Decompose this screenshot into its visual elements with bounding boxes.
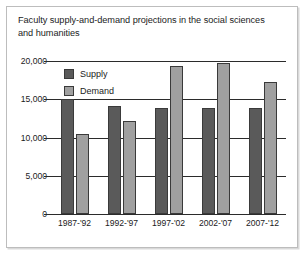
bar-group-4 xyxy=(249,61,277,214)
y-tick-label-15000: 15,000 xyxy=(1,94,47,104)
legend-swatch-supply xyxy=(64,69,74,79)
bar-supply-1[interactable] xyxy=(108,106,121,214)
y-axis-tick-labels: 20,00015,00010,0005,0000 xyxy=(1,61,47,214)
x-tick-label-1: 1992-'97 xyxy=(105,218,138,228)
x-tick-label-3: 2002-'07 xyxy=(199,218,232,228)
y-tick-label-10000: 10,000 xyxy=(1,133,47,143)
bar-group-2 xyxy=(155,61,183,214)
x-tick-label-2: 1997-'02 xyxy=(152,218,185,228)
y-tick-label-5000: 5,000 xyxy=(1,171,47,181)
chart-legend: SupplyDemand xyxy=(64,66,138,100)
bar-group-3 xyxy=(202,61,230,214)
y-tick-label-20000: 20,000 xyxy=(1,56,47,66)
y-tick-mark-5000 xyxy=(44,176,51,177)
legend-label-supply: Supply xyxy=(80,69,108,79)
bar-demand-0[interactable] xyxy=(76,134,89,214)
x-tick-label-0: 1987-'92 xyxy=(58,218,91,228)
x-axis-tick-labels: 1987-'921992-'971997-'022002-'072007-'12 xyxy=(51,218,286,234)
bar-supply-2[interactable] xyxy=(155,108,168,214)
bar-supply-4[interactable] xyxy=(249,108,262,214)
chart-title: Faculty supply-and-demand projections in… xyxy=(18,14,280,40)
legend-entry-supply[interactable]: Supply xyxy=(64,66,138,81)
legend-label-demand: Demand xyxy=(80,86,114,96)
legend-swatch-demand xyxy=(64,86,74,96)
x-tick-label-4: 2007-'12 xyxy=(246,218,279,228)
bar-demand-1[interactable] xyxy=(123,121,136,214)
y-tick-mark-20000 xyxy=(44,61,51,62)
figure-card: Faculty supply-and-demand projections in… xyxy=(6,6,298,248)
legend-entry-demand[interactable]: Demand xyxy=(64,83,138,98)
bar-demand-4[interactable] xyxy=(264,82,277,214)
y-tick-mark-0 xyxy=(44,214,51,215)
gridline-0 xyxy=(51,214,286,215)
bar-supply-3[interactable] xyxy=(202,108,215,214)
bar-demand-3[interactable] xyxy=(217,63,230,214)
y-tick-label-0: 0 xyxy=(1,209,47,219)
y-tick-mark-15000 xyxy=(44,99,51,100)
bar-demand-2[interactable] xyxy=(170,66,183,214)
bar-supply-0[interactable] xyxy=(61,99,74,214)
y-tick-mark-10000 xyxy=(44,138,51,139)
